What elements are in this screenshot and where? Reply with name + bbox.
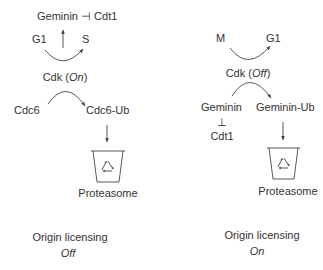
- left-product-cdc6-ub: Cdc6-Ub: [86, 104, 129, 116]
- cdk-label: Cdk: [226, 67, 246, 79]
- right-product-geminin-ub: Geminin-Ub: [256, 101, 315, 113]
- right-ubiquitination-arc: [232, 82, 271, 98]
- cdt1-label: Cdt1: [94, 10, 117, 22]
- inhibition-symbol: ⊣: [81, 10, 91, 22]
- right-substrate-geminin: Geminin: [201, 101, 242, 113]
- cdk-label: Cdk: [43, 71, 63, 83]
- inhibition-symbol: ⊥: [217, 116, 227, 128]
- right-proteasome-bin-icon: [267, 148, 300, 179]
- left-geminin-inhibits-cdt1: Geminin ⊣ Cdt1: [37, 10, 117, 22]
- left-outcome-label: Origin licensing: [32, 231, 107, 243]
- diagram-canvas: Geminin ⊣ Cdt1 G1 S Cdk (On) Cdc6 Cdc6-U…: [0, 0, 323, 270]
- right-phase-g1: G1: [266, 32, 281, 44]
- right-outcome-label: Origin licensing: [224, 229, 299, 241]
- left-substrate-cdc6: Cdc6: [14, 104, 40, 116]
- right-outcome-state: On: [250, 245, 265, 257]
- cdk-state: Off: [252, 67, 267, 79]
- recycle-icon: [278, 158, 290, 169]
- left-outcome-state: Off: [61, 247, 76, 259]
- left-phase-s: S: [82, 33, 89, 45]
- recycle-icon: [102, 161, 114, 172]
- left-cell-cycle-arc: [45, 49, 83, 61]
- left-phase-g1: G1: [32, 33, 47, 45]
- geminin-label: Geminin: [37, 10, 78, 22]
- left-ubiquitination-arc: [48, 91, 85, 106]
- left-proteasome-bin-icon: [91, 151, 125, 182]
- right-cdk-status: Cdk (Off): [226, 67, 271, 79]
- right-proteasome-label: Proteasome: [258, 185, 317, 197]
- right-inhibited-cdt1: Cdt1: [210, 130, 233, 142]
- left-proteasome-label: Proteasome: [78, 187, 137, 199]
- left-cdk-status: Cdk (On): [43, 71, 88, 83]
- right-phase-m: M: [216, 32, 225, 44]
- cdk-state: On: [69, 71, 84, 83]
- right-cell-cycle-arc: [230, 46, 270, 60]
